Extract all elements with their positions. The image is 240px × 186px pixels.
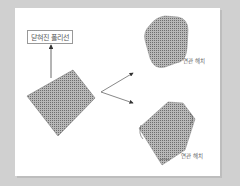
arrow-to-upper [101,73,133,92]
associative-hatch-label-lower: 연관 해치 [181,152,203,160]
closed-polyline-label: 닫혀진 폴리선 [27,30,73,44]
diagram-drawing [0,0,240,186]
arrow-to-lower [101,92,133,103]
closed-polyline-shape [27,70,95,136]
associative-hatch-label-upper: 연관 해치 [183,57,205,65]
associative-hatch-rounded [145,16,188,68]
